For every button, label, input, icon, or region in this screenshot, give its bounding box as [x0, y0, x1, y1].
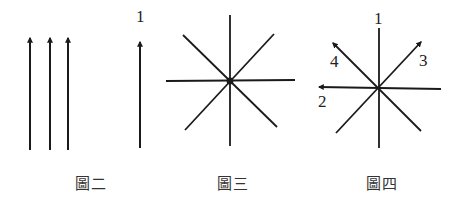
arrow-2-left [319, 87, 441, 89]
figure-2 [30, 38, 140, 150]
label-2: 2 [318, 92, 327, 111]
label-3: 3 [419, 51, 428, 70]
label-4: 4 [330, 52, 339, 71]
single-arrow-label: 1 [136, 7, 145, 26]
figure-3 [166, 15, 295, 146]
caption-figure-4: 圖四 [366, 172, 398, 193]
center-point [228, 79, 233, 84]
label-1: 1 [374, 9, 383, 28]
caption-figure-2: 圖二 [75, 172, 107, 193]
caption-figure-3: 圖三 [217, 172, 249, 193]
figure-4 [319, 28, 441, 148]
